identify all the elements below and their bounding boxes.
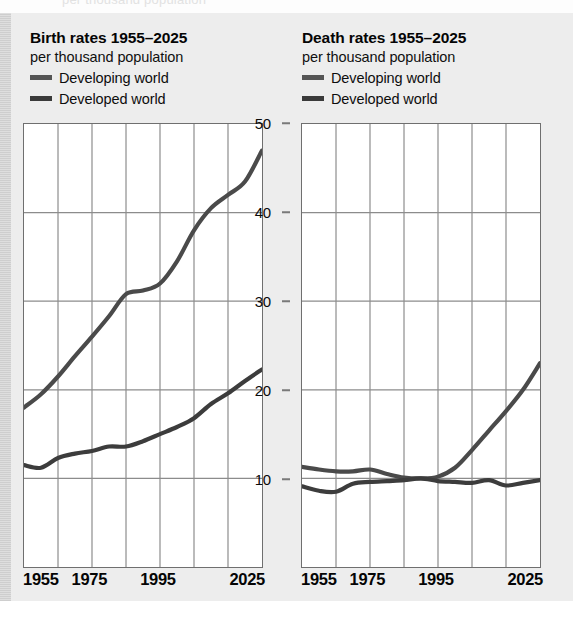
y-axis-tick-30: 30 [255,294,271,309]
panel-birth-title: Birth rates 1955–2025 [30,29,187,47]
legend-swatch-developing-birth [30,75,52,80]
x-axis-tick-1975: 1975 [350,570,386,589]
series-line-developed-world [24,369,262,468]
chart-svg-death [302,124,540,567]
x-axis-tick-2025: 2025 [507,570,543,589]
y-axis-shared: 5040302010 [252,123,290,568]
legend-swatch-developed-birth [30,96,52,101]
series-line-developed-world [302,478,540,492]
legend-label-developing-death: Developing world [331,70,441,86]
y-axis-tick-mark-20 [282,389,290,391]
y-axis-tick-40: 40 [255,205,271,220]
plot-area-death-rates [301,123,541,568]
panel-death-subtitle: per thousand population [302,49,455,65]
legend-swatch-developing-death [302,75,324,80]
series-line-developing-world [302,363,540,478]
top-bleed-label: per thousand population [62,0,206,7]
panel-death-title: Death rates 1955–2025 [302,29,466,47]
x-axis-birth: 1955197519952025 [23,570,263,596]
gridlines [24,124,262,567]
figure-canvas: Birth rates 1955–2025 per thousand popul… [0,13,573,601]
page-bottom-margin [0,601,573,621]
chart-svg-birth [24,124,262,567]
y-axis-tick-20: 20 [255,383,271,398]
y-axis-tick-mark-40 [282,211,290,213]
y-axis-tick-10: 10 [255,472,271,487]
legend-item-developing-birth: Developing world [30,69,169,89]
x-axis-tick-1995: 1995 [418,570,454,589]
x-axis-death: 1955197519952025 [301,570,541,596]
scan-edge-strip [0,13,11,601]
x-axis-tick-2025: 2025 [229,570,265,589]
y-axis-tick-mark-30 [282,300,290,302]
gridlines [302,124,540,567]
panel-birth-rates: Birth rates 1955–2025 per thousand popul… [11,13,290,601]
plot-area-birth-rates [23,123,263,568]
y-axis-tick-mark-10 [282,478,290,480]
legend-label-developing-birth: Developing world [59,70,169,86]
series-line-developing-world [24,151,262,408]
x-axis-tick-1955: 1955 [301,570,337,589]
panel-birth-subtitle: per thousand population [30,49,183,65]
legend-item-developed-death: Developed world [302,90,438,110]
y-axis-tick-50: 50 [255,116,271,131]
legend-swatch-developed-death [302,96,324,101]
top-bleed-text: per thousand population [0,0,573,13]
x-axis-tick-1955: 1955 [23,570,59,589]
legend-item-developing-death: Developing world [302,69,441,89]
legend-label-developed-birth: Developed world [59,91,166,107]
x-axis-tick-1995: 1995 [140,570,176,589]
legend-item-developed-birth: Developed world [30,90,166,110]
x-axis-tick-1975: 1975 [72,570,108,589]
legend-label-developed-death: Developed world [331,91,438,107]
panel-death-rates: Death rates 1955–2025 per thousand popul… [290,13,573,601]
y-axis-tick-mark-50 [282,122,290,124]
